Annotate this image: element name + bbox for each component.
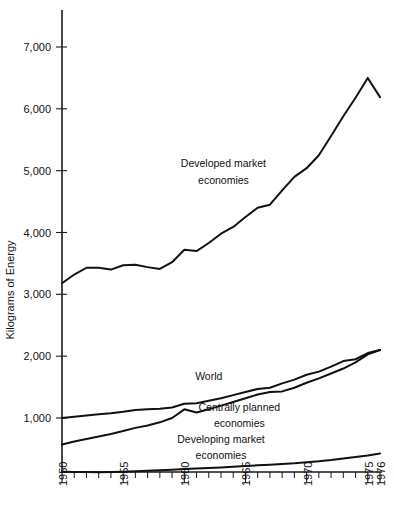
x-tick-label-1960: 1960	[179, 462, 191, 486]
y-tick-label-3000: 3,000	[23, 288, 51, 300]
y-axis-title: Kilograms of Energy	[4, 240, 16, 340]
series-annotations: Developed marketeconomiesWorldCentrally …	[177, 157, 280, 461]
y-axis: 1,0002,0003,0004,0005,0006,0007,000	[23, 10, 67, 472]
annotation-4: economies	[214, 417, 265, 429]
x-tick-label-1976: 1976	[375, 462, 387, 486]
series-lines	[62, 78, 380, 472]
annotation-3: Centrally planned	[198, 401, 280, 413]
y-tick-label-4000: 4,000	[23, 227, 51, 239]
x-tick-label-1975: 1975	[363, 462, 375, 486]
annotation-2: World	[195, 370, 222, 382]
y-tick-label-7000: 7,000	[23, 41, 51, 53]
chart-container: 1,0002,0003,0004,0005,0006,0007,000 1950…	[0, 0, 394, 524]
annotation-5: Developing market	[177, 433, 265, 445]
annotation-6: economies	[196, 449, 247, 461]
y-tick-label-2000: 2,000	[23, 350, 51, 362]
y-tick-label-5000: 5,000	[23, 165, 51, 177]
annotation-1: economies	[198, 174, 249, 186]
x-tick-label-1970: 1970	[302, 462, 314, 486]
y-tick-label-6000: 6,000	[23, 103, 51, 115]
annotation-0: Developed market	[181, 157, 266, 169]
y-tick-label-1000: 1,000	[23, 412, 51, 424]
line-chart: 1,0002,0003,0004,0005,0006,0007,000 1950…	[0, 0, 394, 524]
x-axis: 1950195519601965197019751976	[57, 462, 387, 486]
x-tick-label-1950: 1950	[57, 462, 69, 486]
x-tick-label-1955: 1955	[118, 462, 130, 486]
